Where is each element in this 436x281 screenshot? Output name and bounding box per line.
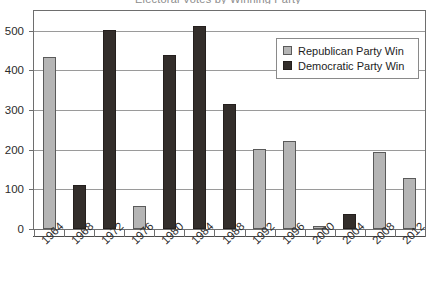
x-tick-1992 [275,230,276,237]
chart-title: Electoral Votes by Winning Party [0,0,436,4]
x-tick-origin [34,230,35,237]
y-tick-mark-100 [29,189,33,190]
bar-1972[interactable] [103,30,116,229]
y-tick-label-100: 100 [5,183,24,195]
y-tick-label-300: 300 [5,104,24,116]
bar-2012[interactable] [403,178,416,229]
y-tick-label-0: 0 [18,223,24,235]
x-tick-1980 [184,230,185,237]
y-tick-label-200: 200 [5,144,24,156]
x-tick-1972 [124,230,125,237]
x-tick-1988 [245,230,246,237]
bar-1964[interactable] [43,57,56,229]
bar-2008[interactable] [373,152,386,229]
x-tick-2000 [335,230,336,237]
y-tick-mark-500 [29,31,33,32]
bar-1984[interactable] [193,26,206,229]
y-tick-label-500: 500 [5,25,24,37]
x-tick-1976 [154,230,155,237]
bar-1992[interactable] [253,149,266,229]
legend-item-dem[interactable]: Democratic Party Win [283,58,412,73]
y-tick-mark-200 [29,150,33,151]
bar-1996[interactable] [283,141,296,229]
y-tick-label-400: 400 [5,64,24,76]
bar-1980[interactable] [163,55,176,229]
x-tick-1996 [305,230,306,237]
legend-item-rep[interactable]: Republican Party Win [283,43,412,58]
x-tick-2012 [425,230,426,237]
legend-label-dem: Democratic Party Win [298,60,404,72]
x-axis-labels: 1964196819721976198019841988199219962000… [33,238,426,280]
x-tick-1968 [94,230,95,237]
bar-1988[interactable] [223,104,236,229]
legend-label-rep: Republican Party Win [298,45,404,57]
x-tick-2008 [395,230,396,237]
y-axis: 0100200300400500 [0,10,29,230]
x-tick-1984 [214,230,215,237]
chart-legend: Republican Party WinDemocratic Party Win [276,38,419,79]
y-tick-mark-400 [29,70,33,71]
x-tick-2004 [365,230,366,237]
legend-swatch-dem [283,61,292,70]
y-tick-mark-300 [29,110,33,111]
legend-swatch-rep [283,46,292,55]
bar-chart: Electoral Votes by Winning Party 0100200… [0,0,436,281]
x-tick-1964 [64,230,65,237]
